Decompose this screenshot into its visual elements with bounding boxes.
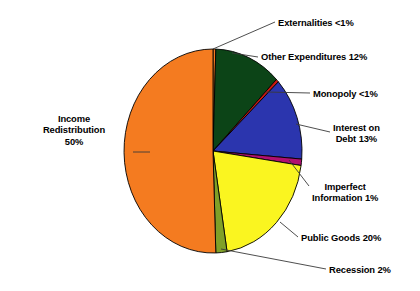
leader-line-recession <box>221 249 326 269</box>
slice-label-interest-on-debt: Interest on Debt 13% <box>333 122 380 145</box>
slice-label-recession: Recession 2% <box>329 264 391 275</box>
slice-label-externalities: Externalities <1% <box>278 17 354 28</box>
slice-label-monopoly: Monopoly <1% <box>313 88 378 99</box>
slice-label-income-redistribution: Income Redistribution 50% <box>18 113 130 147</box>
pie-slice-public-goods <box>213 151 301 252</box>
pie-chart-figure: Externalities <1% Other Expenditures 12%… <box>0 0 420 291</box>
pie-slice-income-redistribution <box>124 49 216 253</box>
slice-label-other-expenditures: Other Expenditures 12% <box>261 51 367 62</box>
leader-line-externalities <box>213 22 275 49</box>
leader-line-interest-on-debt <box>296 124 330 132</box>
slice-label-imperfect-information: Imperfect Information 1% <box>312 181 378 204</box>
pie-slice-group <box>124 49 302 253</box>
slice-label-public-goods: Public Goods 20% <box>301 232 381 243</box>
leader-line-public-goods <box>280 222 298 237</box>
